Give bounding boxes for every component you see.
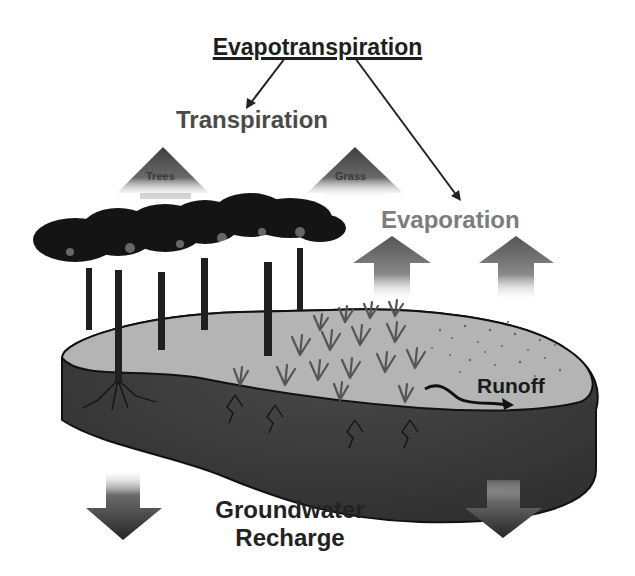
trees-label: Trees — [146, 170, 175, 182]
recharge-left-down-arrow-icon — [86, 471, 162, 540]
runoff-label: Runoff — [477, 374, 545, 398]
transpiration-label: Transpiration — [176, 106, 328, 134]
title-text: Evapotranspiration — [213, 34, 423, 60]
grass-label: Grass — [335, 170, 366, 182]
groundwater-label-line2: Recharge — [190, 524, 390, 552]
groundwater-recharge-label: Groundwater Recharge — [190, 496, 390, 552]
evaporation-left-up-arrow-icon — [353, 236, 431, 300]
water-cycle-illustration — [0, 0, 635, 576]
evaporation-right-up-arrow-icon — [479, 236, 554, 300]
title-arrow-to-transpiration — [246, 58, 285, 109]
diagram-title: Evapotranspiration — [0, 34, 635, 61]
groundwater-label-line1: Groundwater — [190, 496, 390, 524]
evaporation-label: Evaporation — [381, 206, 520, 234]
